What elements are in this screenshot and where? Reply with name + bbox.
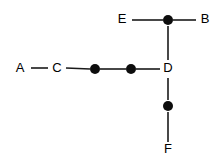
edge-c-m1 (66, 68, 90, 69)
node-dot-middle-second (126, 64, 136, 74)
node-dot-middle-first (90, 64, 100, 74)
node-diagram: A C D E B F (0, 0, 219, 162)
node-label-a: A (16, 60, 25, 75)
label-group: A C D E B F (16, 11, 210, 156)
edge-group (31, 20, 196, 142)
node-label-c: C (52, 60, 61, 75)
node-dot-bottom (163, 101, 173, 111)
node-label-f: F (164, 141, 172, 156)
diagram-canvas: A C D E B F (0, 0, 219, 162)
node-label-b: B (201, 11, 210, 26)
node-dot-top-junction (163, 15, 173, 25)
dot-group (90, 15, 173, 111)
node-label-e: E (118, 11, 127, 26)
node-label-d: D (163, 60, 172, 75)
